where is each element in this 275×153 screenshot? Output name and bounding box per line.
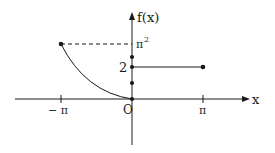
pi-sq-exponent: 2 <box>144 35 149 44</box>
endpoint-left <box>59 42 64 47</box>
two-label: 2 <box>119 60 127 75</box>
endpoint-right <box>201 65 206 70</box>
x-axis-arrow-icon <box>242 96 250 102</box>
dot-y-upper <box>130 55 134 59</box>
dot-origin <box>130 97 134 101</box>
dot-y-two <box>130 65 134 69</box>
function-graph: f(x) x O − π π 2 π 2 <box>0 0 275 153</box>
y-axis-label: f(x) <box>137 10 159 25</box>
neg-pi-label: − π <box>48 104 68 117</box>
pi-label: π <box>199 104 206 117</box>
y-axis-arrow-icon <box>129 12 135 20</box>
origin-label: O <box>123 103 133 117</box>
dot-y-lower <box>130 81 134 85</box>
pi-sq-label: π <box>136 38 143 51</box>
x-axis-label: x <box>252 92 260 107</box>
